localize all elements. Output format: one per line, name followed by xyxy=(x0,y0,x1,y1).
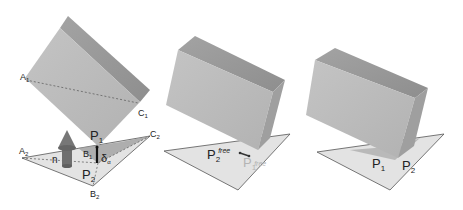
label-b2: B2 xyxy=(90,189,100,200)
ground-plane xyxy=(164,134,290,190)
panel-middle: P2free P1free xyxy=(164,36,290,190)
diagram-canvas: A1 C1 A2 C2 B1 B2 P1 P2 n δα P2free P1fr… xyxy=(0,0,463,210)
panel-left: A1 C1 A2 C2 B1 B2 P1 P2 n δα xyxy=(19,16,161,200)
label-c2: C2 xyxy=(150,129,161,140)
label-a2: A2 xyxy=(19,146,29,157)
label-normal-n: n xyxy=(52,154,58,165)
panel-right: P1 P2 xyxy=(306,48,444,190)
label-c1: C1 xyxy=(138,108,149,119)
